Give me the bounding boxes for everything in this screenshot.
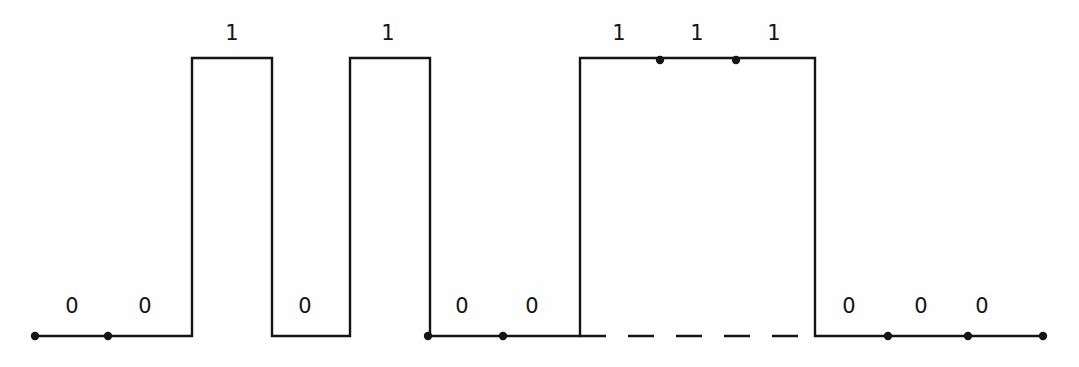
sample-point-dot: [964, 332, 972, 340]
sample-point-dot: [656, 56, 664, 64]
bit-label-high: 1: [381, 23, 394, 44]
sample-point-dot: [732, 56, 740, 64]
bit-label-high: 1: [767, 23, 780, 44]
bit-label-low: 0: [138, 296, 151, 317]
signal-trace-group: [31, 56, 1047, 340]
sample-point-markers: [31, 56, 1047, 340]
bit-label-low: 0: [65, 296, 78, 317]
sample-point-dot: [1039, 332, 1047, 340]
bit-label-low: 0: [975, 296, 988, 317]
bit-label-low: 0: [525, 296, 538, 317]
sample-point-dot: [104, 332, 112, 340]
bit-label-low: 0: [455, 296, 468, 317]
sample-point-dot: [499, 332, 507, 340]
sample-point-dot: [424, 332, 432, 340]
sample-point-dot: [884, 332, 892, 340]
sample-point-dot: [31, 332, 39, 340]
bit-label-high: 1: [690, 23, 703, 44]
waveform-figure: 0010100111000: [0, 0, 1079, 367]
signal-trace-path: [33, 58, 1045, 336]
bit-label-low: 0: [842, 296, 855, 317]
bit-label-high: 1: [612, 23, 625, 44]
bit-label-high: 1: [225, 23, 238, 44]
bit-label-low: 0: [914, 296, 927, 317]
bit-label-low: 0: [298, 296, 311, 317]
